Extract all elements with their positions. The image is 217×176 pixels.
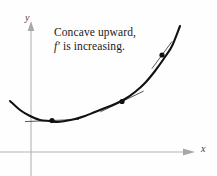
marked-point-1 [49,118,54,123]
marked-point-2 [119,99,124,104]
x-axis-label: x [201,143,205,154]
x-axis-arrowhead [183,149,195,156]
annotation-line-2-rest: is increasing. [60,40,125,52]
y-axis-label: y [25,12,29,23]
marked-point-3 [159,52,164,57]
marked-points-group [49,52,164,123]
annotation-line-1: Concave upward, [54,26,136,38]
concavity-annotation: Concave upward, f′ is increasing. [54,25,136,53]
concavity-figure: Concave upward, f′ is increasing. y x [0,0,217,176]
annotation-line-2: f′ is increasing. [54,39,136,53]
